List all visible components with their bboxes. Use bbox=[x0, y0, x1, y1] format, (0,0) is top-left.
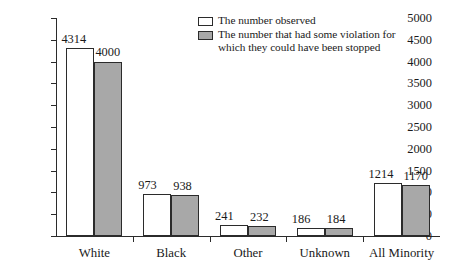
x-axis-separator-tick bbox=[286, 237, 287, 242]
y-axis-tick bbox=[51, 149, 56, 150]
x-axis-category-label: Other bbox=[210, 246, 287, 260]
y-axis-tick bbox=[51, 40, 56, 41]
y-axis-tick bbox=[51, 18, 56, 19]
bar-value-label-violation: 232 bbox=[250, 211, 269, 224]
bar-value-label-observed: 4314 bbox=[61, 33, 86, 46]
x-axis-category-label: Unknown bbox=[286, 246, 363, 260]
x-axis-separator-tick bbox=[210, 237, 211, 242]
y-axis-tick bbox=[51, 192, 56, 193]
y-axis-tick bbox=[51, 105, 56, 106]
y-axis-tick-label: 2000 bbox=[407, 143, 432, 155]
bar-value-label-observed: 241 bbox=[215, 210, 234, 223]
y-axis-tick bbox=[51, 62, 56, 63]
y-axis-line bbox=[56, 18, 57, 236]
y-axis-tick bbox=[51, 214, 56, 215]
plot-area: 5000450040003500300025002000150010005000… bbox=[56, 18, 440, 236]
x-axis-category-label: All Minority bbox=[363, 246, 440, 260]
bar-observed bbox=[66, 48, 94, 236]
bar-violation bbox=[94, 62, 122, 236]
bar-violation bbox=[402, 185, 430, 236]
bar-chart-figure: The number observed The number that had … bbox=[0, 0, 453, 275]
x-axis-separator-tick bbox=[363, 237, 364, 242]
bar-observed bbox=[374, 183, 402, 236]
x-axis-line bbox=[56, 236, 440, 237]
y-axis-tick bbox=[51, 236, 56, 237]
y-axis-tick-label: 5000 bbox=[407, 12, 432, 24]
y-axis-tick bbox=[51, 171, 56, 172]
bar-violation bbox=[325, 228, 353, 236]
x-axis-separator-tick bbox=[133, 237, 134, 242]
bar-value-label-violation: 938 bbox=[173, 180, 192, 193]
y-axis-tick-label: 2500 bbox=[407, 121, 432, 133]
x-axis-category-label: White bbox=[56, 246, 133, 260]
x-axis-category-label: Black bbox=[133, 246, 210, 260]
bar-observed bbox=[143, 194, 171, 236]
y-axis-tick-label: 4000 bbox=[407, 56, 432, 68]
bar-value-label-violation: 4000 bbox=[95, 46, 120, 59]
bar-violation bbox=[248, 226, 276, 236]
y-axis-tick-label: 3500 bbox=[407, 77, 432, 89]
bar-value-label-observed: 1214 bbox=[369, 168, 394, 181]
y-axis-tick bbox=[51, 127, 56, 128]
y-axis-tick bbox=[51, 83, 56, 84]
bar-value-label-observed: 973 bbox=[138, 179, 157, 192]
bar-value-label-observed: 186 bbox=[292, 213, 311, 226]
bar-violation bbox=[171, 195, 199, 236]
y-axis-tick-label: 3000 bbox=[407, 99, 432, 111]
bar-observed bbox=[297, 228, 325, 236]
bar-observed bbox=[220, 225, 248, 236]
bar-value-label-violation: 1170 bbox=[404, 170, 428, 183]
y-axis-tick-label: 4500 bbox=[407, 34, 432, 46]
bar-value-label-violation: 184 bbox=[327, 213, 346, 226]
